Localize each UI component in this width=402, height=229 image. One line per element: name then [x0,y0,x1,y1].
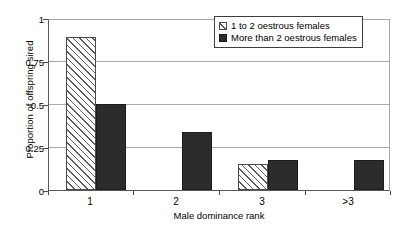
legend-item-2: More than 2 oestrous females [219,32,357,43]
solid-swatch-icon [219,34,227,42]
y-tick-label-025: 0.25 [16,144,44,154]
x-tick-label-1: 1 [60,196,120,207]
chart-legend: 1 to 2 oestrous females More than 2 oest… [214,16,363,48]
y-tick-label-05: 0.5 [16,101,44,111]
bar-rank3-series2 [268,160,298,190]
bar-rank3-series1 [238,164,268,190]
y-tick-label-075: 0.75 [16,58,44,68]
x-tick-mark-2 [219,191,220,195]
legend-label-1: 1 to 2 oestrous females [231,21,330,31]
y-axis-tick-labels: 1 0.75 0.5 0.25 0 [14,0,44,229]
x-tick-mark-right-edge [390,191,391,195]
x-tick-label-2: 2 [146,196,206,207]
bar-rank1-series2 [96,104,126,190]
x-tick-label-gt3: >3 [318,196,378,207]
x-tick-mark-left-edge [48,191,49,195]
legend-label-2: More than 2 oestrous females [231,33,357,43]
x-tick-mark-3 [305,191,306,195]
bar-rank1-series1 [66,37,96,190]
hatched-swatch-icon [219,22,227,30]
y-tick-label-1: 1 [16,15,44,25]
legend-item-1: 1 to 2 oestrous females [219,21,357,32]
bar-chart-figure: Proportion of offspring sired 1 0.75 0.5… [0,0,402,229]
x-tick-label-3: 3 [232,196,292,207]
bar-rank2-series2 [182,132,212,190]
gridline-075 [49,61,389,62]
y-tick-label-0: 0 [16,187,44,197]
bar-rank-gt3-series2 [354,160,384,190]
x-axis-title: Male dominance rank [48,210,390,221]
x-tick-mark-1 [133,191,134,195]
